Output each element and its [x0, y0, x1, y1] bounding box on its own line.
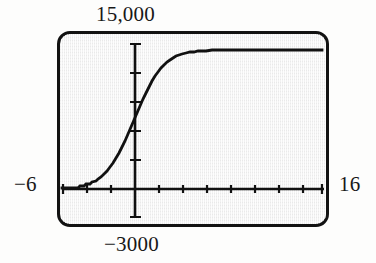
x-axis-max-label: 16	[339, 174, 360, 195]
logistic-curve	[62, 50, 322, 188]
calculator-screenshot: 15,000 −3000 −6 16	[0, 0, 376, 263]
y-axis-min-label: −3000	[104, 234, 159, 255]
graph-plot	[60, 34, 326, 224]
calculator-screen	[57, 31, 329, 227]
y-axis-max-label: 15,000	[96, 4, 155, 25]
x-axis-min-label: −6	[14, 174, 37, 195]
